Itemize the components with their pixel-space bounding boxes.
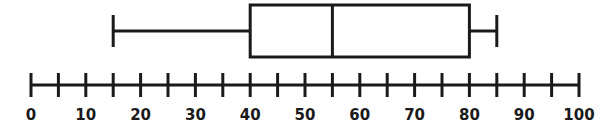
box-plot-svg: 0102030405060708090100: [0, 0, 616, 131]
axis-tick-label-60: 60: [349, 106, 370, 124]
box-and-whisker-group: [113, 5, 497, 57]
axis-tick-label-50: 50: [295, 106, 316, 124]
interquartile-box: [250, 5, 469, 57]
axis-tick-label-20: 20: [130, 106, 151, 124]
axis-tick-label-40: 40: [240, 106, 261, 124]
box-plot-figure: 0102030405060708090100: [0, 0, 616, 131]
number-line-axis-group: [31, 73, 579, 97]
axis-tick-label-90: 90: [514, 106, 535, 124]
axis-tick-label-group: 0102030405060708090100: [26, 106, 595, 124]
axis-tick-label-100: 100: [563, 106, 594, 124]
axis-tick-label-80: 80: [459, 106, 480, 124]
axis-tick-label-30: 30: [185, 106, 206, 124]
axis-tick-label-0: 0: [26, 106, 36, 124]
axis-tick-label-10: 10: [75, 106, 96, 124]
axis-tick-label-70: 70: [404, 106, 425, 124]
